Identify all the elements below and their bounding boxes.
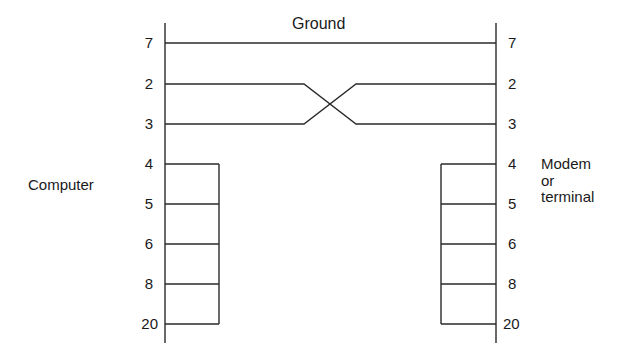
right-pin-4: 4	[508, 156, 548, 172]
right-pin-6: 6	[508, 236, 548, 252]
computer-label: Computer	[28, 177, 94, 193]
left-pin-7: 7	[113, 35, 153, 51]
wire-3-to-2	[165, 84, 496, 124]
right-pin-2: 2	[508, 76, 548, 92]
left-pin-5: 5	[113, 196, 153, 212]
right-pin-20: 20	[503, 316, 543, 332]
right-pin-8: 8	[508, 276, 548, 292]
ground-label: Ground	[292, 16, 345, 32]
left-pin-6: 6	[113, 236, 153, 252]
left-pin-20: 20	[118, 316, 158, 332]
left-pin-3: 3	[113, 116, 153, 132]
right-pin-5: 5	[508, 196, 548, 212]
right-pin-7: 7	[508, 35, 548, 51]
left-pin-4: 4	[113, 156, 153, 172]
right-loopback	[441, 164, 496, 324]
modem-label-line2: or	[541, 173, 554, 189]
left-pin-8: 8	[113, 276, 153, 292]
modem-label-line3: terminal	[541, 189, 594, 205]
left-pin-2: 2	[113, 76, 153, 92]
left-loopback	[165, 164, 219, 324]
modem-label-line1: Modem	[541, 156, 591, 172]
right-pin-3: 3	[508, 116, 548, 132]
